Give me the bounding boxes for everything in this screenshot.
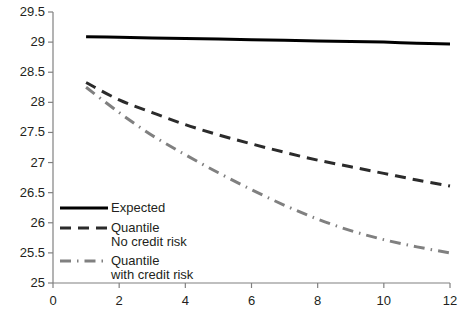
legend-label: Quantile with credit risk	[111, 253, 193, 282]
x-tick-label: 12	[430, 294, 470, 307]
chart-container: 2525.52626.52727.52828.52929.5 024681012…	[0, 0, 470, 315]
legend-swatch-0	[60, 200, 108, 216]
y-tick-label: 27.5	[20, 125, 45, 138]
legend-swatch-2	[60, 253, 108, 269]
y-tick-label: 25	[31, 276, 45, 289]
legend-label: Quantile No credit risk	[111, 220, 187, 249]
legend-item: Expected	[60, 200, 250, 216]
x-tick-label: 10	[364, 294, 404, 307]
chart-legend: ExpectedQuantile No credit riskQuantile …	[60, 200, 250, 286]
x-tick-label: 2	[99, 294, 139, 307]
series-line-1	[86, 82, 450, 186]
x-tick-label: 0	[33, 294, 73, 307]
y-tick-label: 28	[31, 95, 45, 108]
y-tick-label: 28.5	[20, 65, 45, 78]
legend-item: Quantile No credit risk	[60, 220, 250, 249]
legend-swatch-1	[60, 220, 108, 236]
legend-item: Quantile with credit risk	[60, 253, 250, 282]
y-tick-label: 26	[31, 216, 45, 229]
series-line-0	[86, 37, 450, 44]
x-tick-label: 6	[232, 294, 272, 307]
y-tick-label: 25.5	[20, 246, 45, 259]
y-tick-label: 27	[31, 156, 45, 169]
x-tick-label: 4	[165, 294, 205, 307]
x-tick-label: 8	[298, 294, 338, 307]
y-tick-label: 29	[31, 35, 45, 48]
legend-label: Expected	[111, 200, 165, 215]
y-tick-label: 26.5	[20, 186, 45, 199]
y-tick-label: 29.5	[20, 5, 45, 18]
